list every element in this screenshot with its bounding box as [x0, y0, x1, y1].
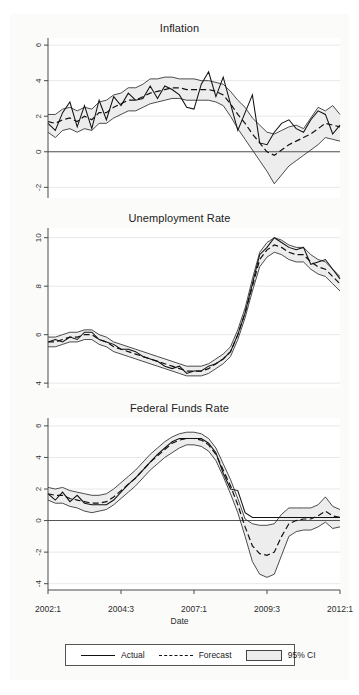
legend-item-forecast: Forecast: [152, 650, 239, 660]
y-tick-label: 6: [35, 332, 44, 337]
plot-area-federal-funds-rate: -4-20246: [10, 418, 349, 596]
y-tick-label: 4: [35, 455, 44, 460]
chart-svg: -4-20246: [10, 418, 349, 596]
panel-unemployment-rate: Unemployment Rate 46810: [10, 204, 349, 396]
y-tick-label: 4: [35, 380, 44, 385]
y-tick-label: 6: [35, 423, 44, 428]
plot-area-inflation: -20246: [10, 38, 349, 204]
figure-canvas: Inflation -20246 Unemployment Rate 46810…: [10, 14, 349, 680]
y-tick-label: 2: [35, 486, 44, 491]
chart-svg: -20246: [10, 38, 349, 204]
y-tick-label: 0: [35, 149, 44, 154]
y-tick-label: 8: [35, 283, 44, 288]
x-tick-label: 2002:1: [35, 604, 61, 614]
panel-title-federal-funds-rate: Federal Funds Rate: [10, 402, 349, 414]
legend-label-actual: Actual: [121, 650, 145, 660]
dashed-line-icon: [159, 655, 193, 656]
y-tick-label: 6: [35, 42, 44, 47]
panel-federal-funds-rate: Federal Funds Rate -4-20246: [10, 394, 349, 599]
y-tick-label: 4: [35, 78, 44, 83]
solid-line-icon: [81, 655, 115, 656]
y-tick-label: 0: [35, 518, 44, 523]
y-tick-label: 2: [35, 113, 44, 118]
chart-legend: Actual Forecast 95% CI: [65, 644, 295, 666]
plot-area-unemployment-rate: 46810: [10, 228, 349, 394]
y-tick-label: -4: [35, 580, 44, 588]
panel-title-unemployment-rate: Unemployment Rate: [10, 212, 349, 224]
panel-inflation: Inflation -20246: [10, 14, 349, 206]
legend-item-ci: 95% CI: [239, 650, 323, 661]
panel-title-inflation: Inflation: [10, 22, 349, 34]
x-tick-label: 2004:3: [108, 604, 134, 614]
y-tick-label: -2: [35, 183, 44, 191]
legend-label-ci: 95% CI: [288, 650, 316, 660]
legend-label-forecast: Forecast: [199, 650, 232, 660]
shaded-band-icon: [246, 650, 282, 661]
chart-svg: 46810: [10, 228, 349, 394]
x-axis-title: Date: [10, 616, 349, 626]
x-tick-label: 2012:1: [327, 604, 353, 614]
legend-item-actual: Actual: [74, 650, 152, 660]
x-tick-label: 2007:1: [181, 604, 207, 614]
x-tick-label: 2009:3: [254, 604, 280, 614]
y-tick-label: 10: [35, 233, 44, 242]
y-tick-label: -2: [35, 548, 44, 556]
